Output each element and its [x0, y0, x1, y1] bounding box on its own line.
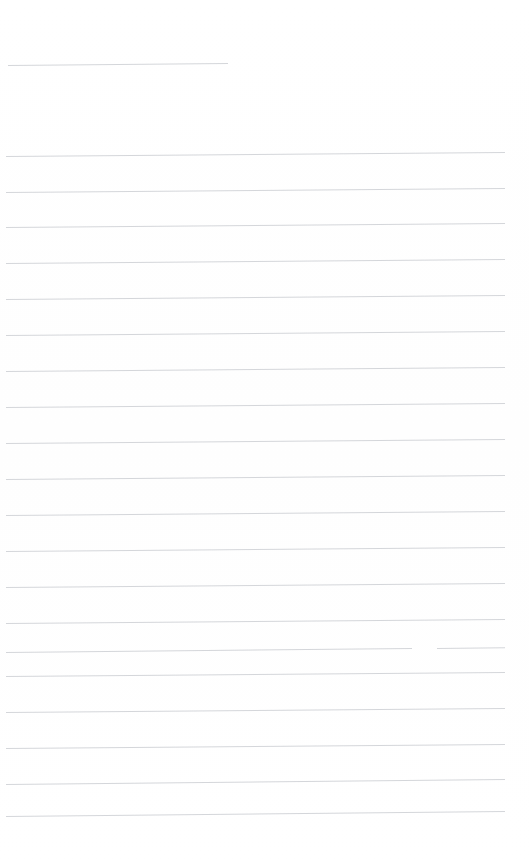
header-region [0, 0, 529, 140]
body-region [0, 140, 529, 840]
scanned-page [0, 0, 529, 867]
footer-region [0, 840, 529, 867]
rule-15-segment-b [437, 647, 505, 649]
